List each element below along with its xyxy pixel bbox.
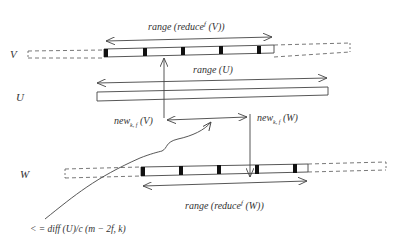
range-u-arrow (97, 78, 327, 83)
v-tick (143, 48, 147, 56)
range-u-label: range (U) (193, 64, 233, 76)
new-v-label: newk, f (V) (114, 115, 153, 128)
v-dashed-extent (28, 43, 350, 58)
diagram-canvas: V range (reducef (V)) range (U) U newk, … (0, 0, 404, 242)
u-bar (97, 87, 328, 101)
range-reduce-w-label: range (reducef (W)) (185, 199, 264, 212)
bound-formula-label: < = diff (U)/c (m − 2f, k) (30, 224, 126, 235)
new-w-label: newk, f (W) (257, 112, 299, 125)
v-reduced-bar (104, 45, 274, 57)
row-label-w: W (20, 168, 30, 180)
range-reduce-v-label: range (reducef (V)) (148, 20, 225, 33)
v-tick (219, 46, 223, 54)
v-tick (257, 46, 261, 54)
range-reduce-w-arrow (143, 181, 307, 186)
w-tick (141, 167, 145, 176)
row-label-v: V (10, 48, 18, 60)
w-tick (217, 165, 221, 174)
new-span-arrow (167, 117, 247, 120)
w-tick (293, 164, 297, 173)
w-dashed-extent (65, 162, 386, 178)
v-tick (181, 47, 185, 55)
w-tick (179, 166, 183, 175)
w-reduced-bar (141, 164, 308, 176)
row-label-u: U (16, 91, 25, 103)
w-tick (255, 165, 259, 174)
range-reduce-v-arrow (106, 37, 272, 41)
v-tick (104, 49, 108, 57)
